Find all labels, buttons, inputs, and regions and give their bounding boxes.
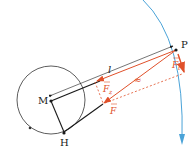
point-p-dot bbox=[174, 48, 177, 51]
segment-mh bbox=[51, 101, 64, 132]
label-h: H bbox=[60, 137, 69, 148]
dashed-f-ft bbox=[105, 74, 182, 103]
label-length: l bbox=[108, 64, 111, 75]
point-m-dot bbox=[49, 99, 52, 102]
svg-text:F: F bbox=[109, 106, 117, 116]
segment-h-f bbox=[64, 104, 103, 132]
label-force-z: F z bbox=[102, 82, 113, 95]
circle-marker bbox=[29, 127, 32, 130]
svg-text:t: t bbox=[178, 64, 181, 71]
rod-mp bbox=[51, 81, 100, 101]
svg-text:z: z bbox=[108, 88, 113, 95]
orbit-arrow-icon bbox=[179, 134, 185, 145]
force-diagram: ≈ P M H l F z F F t bbox=[0, 0, 195, 154]
label-force: F bbox=[109, 104, 117, 116]
label-m: M bbox=[38, 95, 48, 106]
label-p: P bbox=[181, 39, 188, 50]
dashed-fz-f bbox=[95, 82, 103, 103]
length-dimension bbox=[52, 46, 173, 95]
point-h-dot bbox=[62, 131, 65, 134]
approx-sign: ≈ bbox=[134, 75, 142, 85]
